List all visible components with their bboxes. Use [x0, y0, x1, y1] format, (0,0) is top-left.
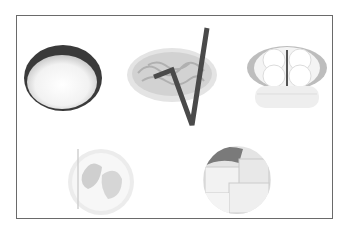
rice-bowl-icon [22, 42, 104, 112]
dumplings-icon [62, 145, 140, 215]
check-mark [150, 25, 212, 134]
rice-bowl-image[interactable] [22, 42, 104, 112]
steamed-buns-image[interactable] [245, 42, 329, 112]
dumplings-image[interactable] [62, 145, 140, 215]
check-mark-icon [150, 25, 212, 130]
steamer-basket-icon [245, 42, 329, 112]
tofu-image[interactable] [199, 145, 275, 215]
tofu-icon [199, 145, 275, 215]
